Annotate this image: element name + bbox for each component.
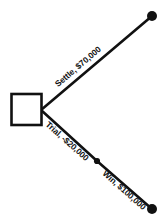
decision-node-square[interactable] xyxy=(12,94,42,125)
decision-tree-canvas xyxy=(0,0,165,224)
terminal-node-settle[interactable] xyxy=(147,11,157,21)
chance-node-trial[interactable] xyxy=(94,158,100,164)
decision-tree-diagram: Settle, $70,000 Trial, -$20,000 Win, $10… xyxy=(0,0,165,224)
terminal-node-win[interactable] xyxy=(147,204,157,214)
branch-line-settle xyxy=(41,16,152,110)
